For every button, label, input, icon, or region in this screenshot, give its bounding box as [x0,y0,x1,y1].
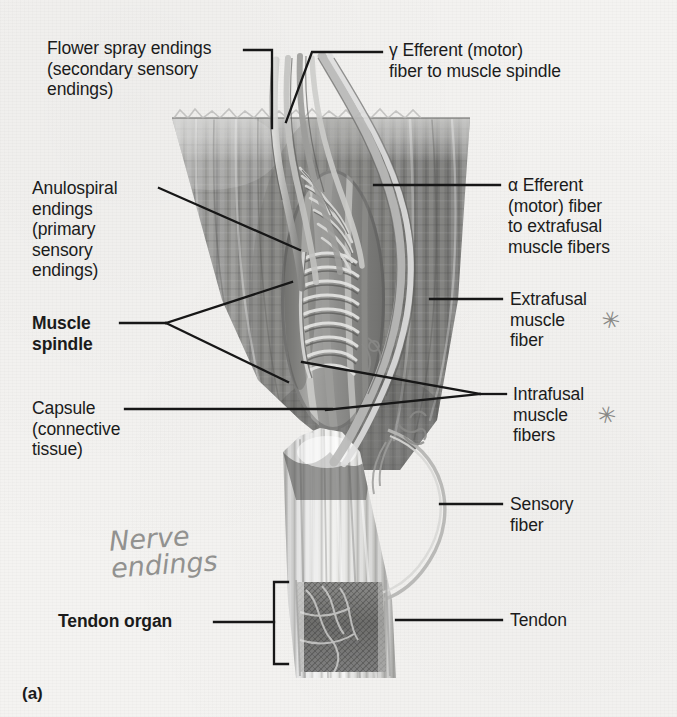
handwritten-nerve-endings-note: Nerve endings [108,520,218,581]
label-sensory-fiber: Sensory fiber [510,494,660,535]
label-tendon-organ: Tendon organ [58,611,248,632]
figure-id-label: (a) [22,684,43,704]
label-gamma-efferent: γ Efferent (motor) fiber to muscle spind… [389,40,659,81]
label-muscle-spindle: Muscle spindle [32,313,142,354]
tendon-organ [292,578,390,678]
anatomy-figure: Flower spray endings (secondary sensory … [0,0,677,717]
label-tendon: Tendon [510,610,660,631]
label-intrafusal-muscle-fibers: Intrafusal muscle fibers [513,384,663,446]
tendon-organ-bracket [274,582,288,664]
label-capsule: Capsule (connective tissue) [32,398,172,460]
label-extrafusal-muscle-fiber: Extrafusal muscle fiber [510,289,660,351]
label-alpha-efferent: α Efferent (motor) fiber to extrafusal m… [508,175,673,257]
label-anulospiral-endings: Anulospiral endings (primary sensory end… [32,178,162,281]
label-flower-spray-endings: Flower spray endings (secondary sensory … [47,38,247,100]
